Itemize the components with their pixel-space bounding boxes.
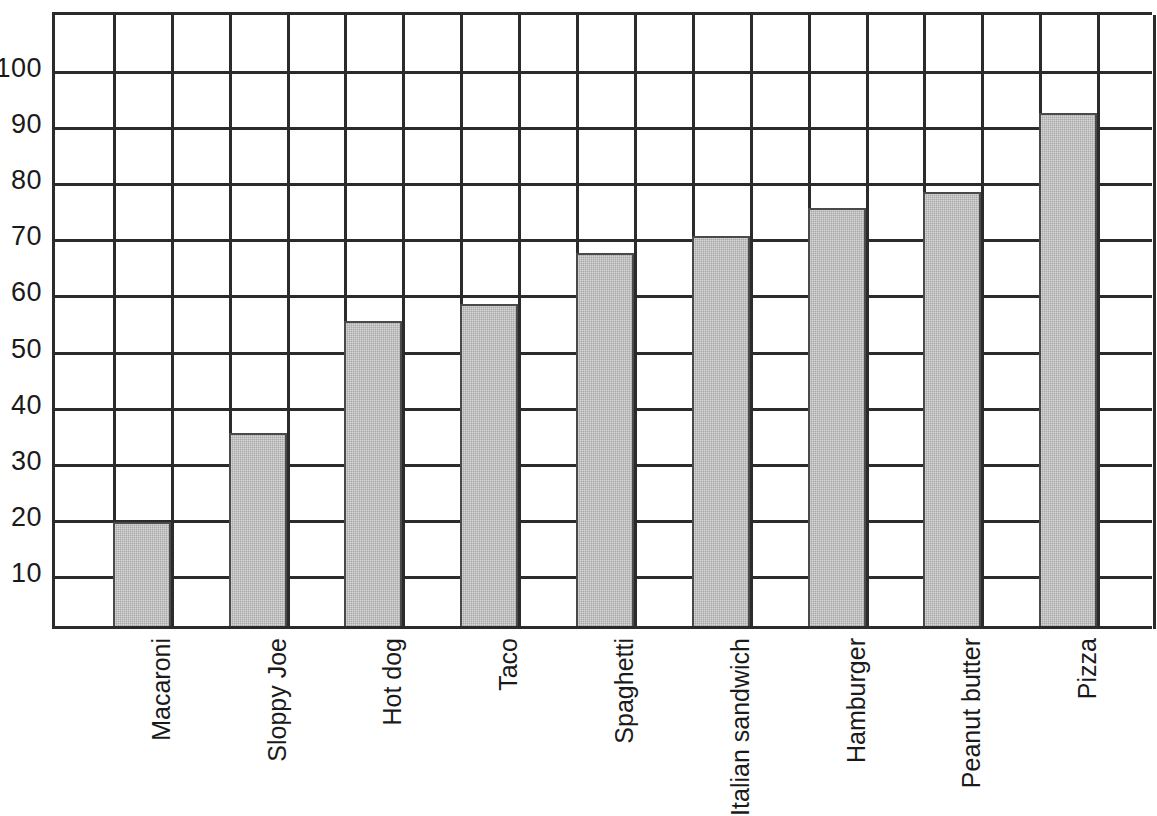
- x-tick-label-taco: Taco: [496, 638, 521, 691]
- x-tick-label-hamburger: Hamburger: [844, 638, 869, 763]
- y-axis: 102030405060708090100: [0, 0, 48, 640]
- x-tick-label-macaroni: Macaroni: [149, 638, 174, 741]
- bar-sloppy-joe: [229, 433, 287, 629]
- plot-right-edge: [1153, 15, 1156, 629]
- bar-italian-sandwich: [692, 236, 750, 629]
- gridline-x-8: [518, 15, 521, 629]
- y-tick-label-80: 80: [11, 167, 42, 194]
- plot-area: [52, 12, 1152, 629]
- gridline-y-90: [55, 127, 1152, 130]
- gridline-y-80: [55, 183, 1152, 186]
- gridline-x-2: [171, 15, 174, 629]
- y-tick-label-20: 20: [11, 503, 42, 530]
- y-tick-label-100: 100: [0, 55, 42, 82]
- bar-pizza: [1039, 113, 1097, 629]
- gridline-x-4: [287, 15, 290, 629]
- gridline-x-16: [981, 15, 984, 629]
- gridline-y-100: [55, 71, 1152, 74]
- y-tick-label-30: 30: [11, 447, 42, 474]
- y-tick-label-40: 40: [11, 391, 42, 418]
- bar-taco: [460, 304, 518, 629]
- bar-peanut-butter: [923, 192, 981, 630]
- y-tick-label-90: 90: [11, 111, 42, 138]
- gridline-x-6: [402, 15, 405, 629]
- gridline-x-18: [1097, 15, 1100, 629]
- gridline-x-10: [634, 15, 637, 629]
- gridline-x-14: [866, 15, 869, 629]
- bar-macaroni: [113, 522, 171, 629]
- x-tick-label-pizza: Pizza: [1075, 638, 1100, 699]
- x-tick-label-peanut-butter: Peanut butter: [959, 638, 984, 788]
- x-axis-baseline: [55, 626, 1152, 629]
- x-tick-label-spaghetti: Spaghetti: [612, 638, 637, 744]
- bar-hamburger: [808, 208, 866, 629]
- gridline-x-12: [750, 15, 753, 629]
- x-tick-label-italian-sandwich: Italian sandwich: [728, 638, 753, 816]
- y-tick-label-10: 10: [11, 559, 42, 586]
- bar-spaghetti: [576, 253, 634, 629]
- y-tick-label-60: 60: [11, 279, 42, 306]
- y-tick-label-50: 50: [11, 335, 42, 362]
- bar-hot-dog: [344, 321, 402, 630]
- x-axis: MacaroniSloppy JoeHot dogTacoSpaghettiIt…: [52, 632, 1152, 800]
- gridline-y-70: [55, 239, 1152, 242]
- x-tick-label-hot-dog: Hot dog: [380, 638, 405, 726]
- y-tick-label-70: 70: [11, 223, 42, 250]
- x-tick-label-sloppy-joe: Sloppy Joe: [265, 638, 290, 762]
